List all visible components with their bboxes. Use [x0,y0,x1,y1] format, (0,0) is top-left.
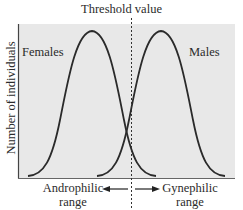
androphilic-text: Androphilic [40,181,106,195]
androphilic-range-text: range [40,195,106,209]
androphilic-label: Androphilic range [40,181,106,209]
males-label: Males [189,45,220,59]
chart-graphics [0,0,243,210]
females-label: Females [22,45,64,59]
gynephilic-label: Gynephilic range [158,181,222,209]
gynephilic-range-text: range [158,195,222,209]
gynephilic-text: Gynephilic [158,181,222,195]
